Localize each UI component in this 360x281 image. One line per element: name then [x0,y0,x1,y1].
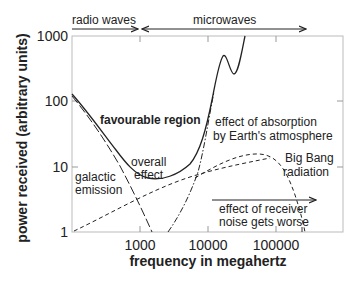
x-axis-title: frequency in megahertz [129,253,286,269]
x-tick-1000: 1000 [124,237,155,253]
overall-effect-label-1: overall [131,155,166,169]
x-tick-10000: 10000 [189,237,228,253]
galactic-emission-label-2: emission [75,183,122,197]
y-tick-100: 100 [45,93,69,109]
big-bang-label-1: Big Bang [285,151,334,165]
y-tick-labels: 1000 100 10 1 [37,28,68,240]
big-bang-label-2: radiation [283,165,329,179]
chart: radio waves microwaves 1000 100 10 1 100… [0,0,360,281]
microwaves-label: microwaves [193,13,256,27]
favourable-region-label: favourable region [100,113,201,127]
radio-waves-label: radio waves [72,13,136,27]
y-tick-1000: 1000 [37,28,68,44]
y-tick-1: 1 [60,224,68,240]
receiver-noise-label-2: noise gets worse [219,215,309,229]
y-tick-10: 10 [52,159,68,175]
x-tick-100000: 100000 [253,237,300,253]
band-arrows: radio waves microwaves [72,13,306,29]
absorption-label-2: by Earth's atmosphere [213,129,333,143]
y-axis-title: power received (arbitrary units) [14,33,30,242]
absorption-label-1: effect of absorption [215,115,317,129]
receiver-noise-label-1: effect of receiver [219,202,308,216]
galactic-emission-label-1: galactic [75,170,116,184]
x-tick-labels: 1000 10000 100000 [124,237,299,253]
overall-effect-label-2: effect [134,168,164,182]
